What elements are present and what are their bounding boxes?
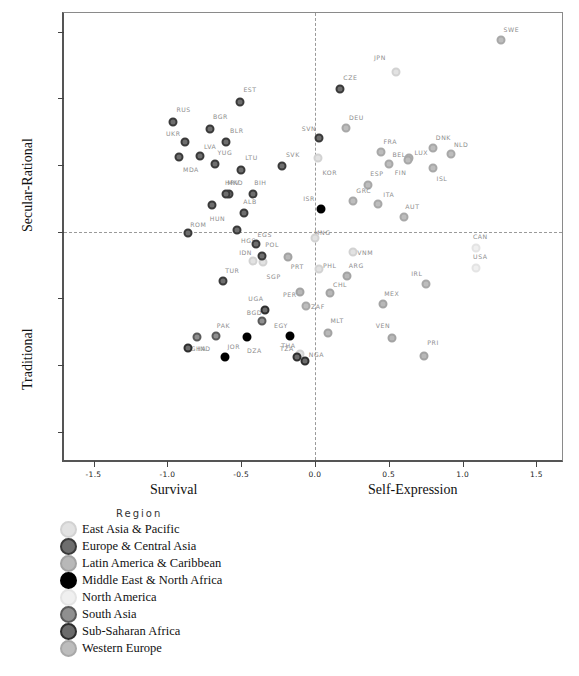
data-point[interactable] [420, 351, 429, 360]
data-point[interactable] [240, 209, 249, 218]
data-point[interactable] [284, 253, 293, 262]
x-axis-tick [315, 461, 316, 467]
data-point[interactable] [248, 257, 257, 266]
data-point[interactable] [219, 277, 228, 286]
data-point[interactable] [343, 271, 352, 280]
data-point[interactable] [207, 201, 216, 210]
data-point[interactable] [184, 343, 193, 352]
data-point[interactable] [169, 118, 178, 127]
data-point[interactable] [315, 265, 324, 274]
data-point[interactable] [341, 123, 350, 132]
data-point[interactable] [210, 159, 219, 168]
data-point[interactable] [421, 279, 430, 288]
data-point-label: ITA [383, 191, 394, 198]
y-axis-tick [58, 232, 64, 233]
data-point[interactable] [257, 317, 266, 326]
data-point[interactable] [222, 190, 231, 199]
legend-item-north-america[interactable]: North America [60, 589, 360, 606]
x-axis-tick-label: 0.0 [295, 470, 335, 479]
data-point[interactable] [325, 289, 334, 298]
y-axis-label-traditional: Traditional [20, 328, 36, 390]
data-point-label: RUS [176, 106, 190, 113]
legend-item-label: Western Europe [82, 641, 162, 656]
legend-item-latin-america-caribbean[interactable]: Latin America & Caribbean [60, 555, 360, 572]
data-point[interactable] [181, 138, 190, 147]
data-point-label: NLD [454, 140, 469, 147]
legend-swatch-circle-icon [60, 538, 77, 555]
x-axis-tick [389, 461, 390, 467]
data-point[interactable] [278, 162, 287, 171]
data-point[interactable] [399, 213, 408, 222]
data-point-label: SGP [267, 272, 281, 279]
data-point[interactable] [220, 353, 229, 362]
legend-swatch-circle-icon [60, 572, 77, 589]
data-point[interactable] [403, 155, 412, 164]
data-point[interactable] [243, 333, 252, 342]
data-point[interactable] [235, 98, 244, 107]
data-point[interactable] [471, 263, 480, 272]
data-point[interactable] [315, 134, 324, 143]
data-point[interactable] [336, 85, 345, 94]
data-point[interactable] [302, 302, 311, 311]
legend-item-middle-east-north-africa[interactable]: Middle East & North Africa [60, 572, 360, 589]
data-point[interactable] [429, 143, 438, 152]
data-point[interactable] [374, 199, 383, 208]
x-axis-tick [241, 461, 242, 467]
data-point[interactable] [184, 229, 193, 238]
data-point[interactable] [313, 154, 322, 163]
data-point[interactable] [222, 138, 231, 147]
data-point-label: IRL [411, 270, 422, 277]
data-point[interactable] [232, 226, 241, 235]
data-point-label: CAN [473, 232, 488, 239]
data-point[interactable] [324, 329, 333, 338]
data-point[interactable] [206, 125, 215, 134]
data-point[interactable] [377, 147, 386, 156]
data-point[interactable] [293, 353, 302, 362]
data-point[interactable] [392, 67, 401, 76]
data-point[interactable] [257, 251, 266, 260]
data-point[interactable] [471, 243, 480, 252]
y-axis-tick [58, 98, 64, 99]
data-point[interactable] [349, 197, 358, 206]
data-point-label: HRV [225, 179, 240, 186]
data-point[interactable] [192, 333, 201, 342]
legend-item-sub-saharan-africa[interactable]: Sub-Saharan Africa [60, 623, 360, 640]
x-axis-tick-label: 1.5 [516, 470, 556, 479]
legend-swatch-circle-icon [60, 555, 77, 572]
legend-item-europe-central-asia[interactable]: Europe & Central Asia [60, 538, 360, 555]
data-point[interactable] [195, 151, 204, 160]
data-point[interactable] [384, 159, 393, 168]
data-point[interactable] [429, 163, 438, 172]
legend-item-label: Sub-Saharan Africa [82, 624, 180, 639]
data-point-label: PRI [427, 339, 439, 346]
legend-item-south-asia[interactable]: South Asia [60, 606, 360, 623]
data-point[interactable] [387, 334, 396, 343]
data-point-label: ARG [349, 262, 364, 269]
data-point[interactable] [446, 150, 455, 159]
data-point-label: PAK [217, 322, 230, 329]
data-point[interactable] [260, 306, 269, 315]
legend-item-east-asia-pacific[interactable]: East Asia & Pacific [60, 521, 360, 538]
data-point[interactable] [251, 239, 260, 248]
legend: Region East Asia & PacificEurope & Centr… [60, 508, 360, 657]
data-point[interactable] [296, 287, 305, 296]
y-axis-tick [58, 32, 64, 33]
data-point[interactable] [212, 331, 221, 340]
data-point[interactable] [378, 299, 387, 308]
data-point[interactable] [349, 247, 358, 256]
data-point-label: BIH [254, 179, 266, 186]
legend-swatch-circle-icon [60, 521, 77, 538]
data-point-label: NGA [309, 351, 324, 358]
data-point[interactable] [496, 35, 505, 44]
data-point[interactable] [310, 234, 319, 243]
data-point-label: KOR [322, 168, 337, 175]
data-point[interactable] [237, 166, 246, 175]
x-axis-tick-label: -0.5 [221, 470, 261, 479]
x-axis-tick [463, 461, 464, 467]
data-point-label: YUG [218, 148, 233, 155]
legend-item-western-europe[interactable]: Western Europe [60, 640, 360, 657]
data-point[interactable] [316, 205, 325, 214]
data-point[interactable] [175, 153, 184, 162]
y-axis-tick [58, 365, 64, 366]
data-point[interactable] [285, 331, 294, 340]
